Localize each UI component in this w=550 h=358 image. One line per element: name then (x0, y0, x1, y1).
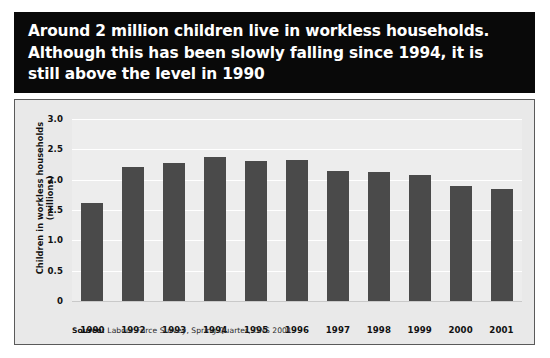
bar-slot (399, 119, 440, 301)
y-axis-tick-label: 0.5 (3, 266, 63, 276)
bar (122, 167, 144, 301)
bar-slot (72, 119, 113, 301)
bar (450, 186, 472, 301)
bar-slot (358, 119, 399, 301)
source-label: Source: (72, 326, 105, 335)
bar (163, 163, 185, 301)
chart-figure: Around 2 million children live in workle… (0, 0, 550, 358)
chart-panel: Children in workless households (million… (14, 99, 535, 345)
x-axis-tick-label: 2001 (472, 325, 532, 335)
gridline (72, 301, 522, 302)
bar-slot (195, 119, 236, 301)
bar-slot (154, 119, 195, 301)
bar-slot (277, 119, 318, 301)
bar (368, 172, 390, 301)
y-axis-tick-label: 0 (3, 296, 63, 306)
bar (491, 189, 513, 301)
y-axis-tick-label: 1.0 (3, 235, 63, 245)
chart-title: Around 2 million children live in workle… (28, 21, 521, 86)
plot-area: 00.51.01.52.02.53.0 19901992199319941995… (72, 119, 522, 301)
bar-slot (440, 119, 481, 301)
bar (245, 161, 267, 301)
bar-series (72, 119, 522, 301)
source-note: Source: Labour Force Survey, Spring Quar… (72, 326, 292, 335)
title-banner: Around 2 million children live in workle… (14, 12, 535, 93)
bar-slot (236, 119, 277, 301)
y-axis-tick-label: 2.5 (3, 144, 63, 154)
bar-slot (317, 119, 358, 301)
y-axis-tick-label: 2.0 (3, 175, 63, 185)
bar (204, 157, 226, 301)
y-axis-tick-label: 1.5 (3, 205, 63, 215)
bar-slot (113, 119, 154, 301)
source-text: Labour Force Survey, Spring Quarter, ONS… (105, 326, 292, 335)
y-axis-tick-label: 3.0 (3, 114, 63, 124)
bar-slot (481, 119, 522, 301)
bar (327, 171, 349, 301)
bar (286, 160, 308, 301)
bar (409, 175, 431, 301)
bar (81, 203, 103, 301)
